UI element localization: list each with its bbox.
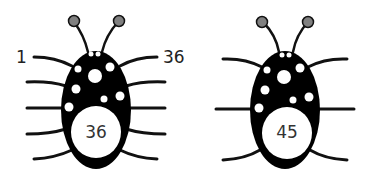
right-bug-belly-number: 45 [267, 124, 307, 141]
antenna-tip-icon [114, 16, 125, 27]
antenna-tip-icon [257, 17, 268, 28]
bug-diagram [0, 0, 372, 178]
antenna-tip-icon [303, 17, 314, 28]
antenna-tip-icon [69, 16, 80, 27]
left-bug-belly-number: 36 [76, 124, 116, 141]
left-bug-antennae [74, 22, 118, 52]
right-bug-antennae [263, 22, 308, 52]
leg-label-right-top: 36 [163, 49, 185, 66]
left-bug [27, 16, 165, 170]
leg-label-left-top: 1 [16, 49, 27, 66]
right-bug [216, 17, 354, 170]
